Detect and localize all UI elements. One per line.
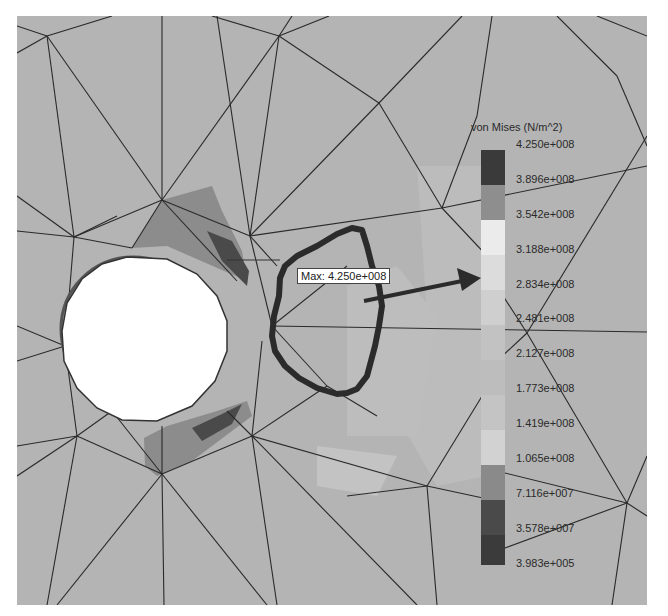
legend-label-6: 2.127e+008 [516, 347, 574, 359]
legend-label-10: 7.116e+007 [516, 487, 574, 499]
legend-label-12: 3.983e+005 [516, 557, 574, 569]
legend-label-9: 1.065e+008 [516, 452, 574, 464]
legend-label-1: 3.896e+008 [516, 173, 574, 185]
hole [62, 257, 227, 421]
legend-label-11: 3.578e+007 [516, 522, 574, 534]
legend-label-8: 1.419e+008 [516, 417, 574, 429]
legend-label-0: 4.250e+008 [516, 138, 574, 150]
legend-label-2: 3.542e+008 [516, 208, 574, 220]
legend-label-7: 1.773e+008 [516, 382, 574, 394]
legend-label-5: 2.481e+008 [516, 312, 574, 324]
mesh-contour-svg [17, 16, 647, 605]
stress-plot-canvas: Max: 4.250e+008 von Mises (N/m^2) 4.250e… [17, 16, 647, 605]
contour-zone-low [317, 446, 397, 496]
legend-label-4: 2.834e+008 [516, 278, 574, 290]
legend-title: von Mises (N/m^2) [471, 121, 562, 133]
max-value-label: Max: 4.250e+008 [297, 268, 390, 284]
legend-label-3: 3.188e+008 [516, 243, 574, 255]
legend-color-bar [481, 150, 505, 565]
